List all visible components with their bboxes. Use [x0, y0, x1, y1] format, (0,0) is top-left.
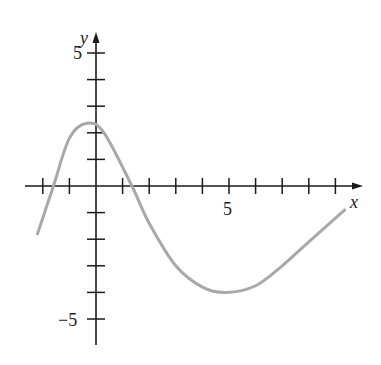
function-curve — [37, 123, 344, 293]
chart: x y 5 5 −5 — [0, 0, 381, 365]
y-axis-arrow-icon — [93, 32, 100, 43]
y-tick-label-5: 5 — [73, 43, 82, 63]
axes — [25, 32, 363, 345]
y-tick-label-neg5: −5 — [58, 310, 77, 330]
x-tick-label-5: 5 — [223, 199, 232, 219]
x-axis-arrow-icon — [352, 183, 363, 190]
x-axis-label: x — [349, 192, 358, 212]
